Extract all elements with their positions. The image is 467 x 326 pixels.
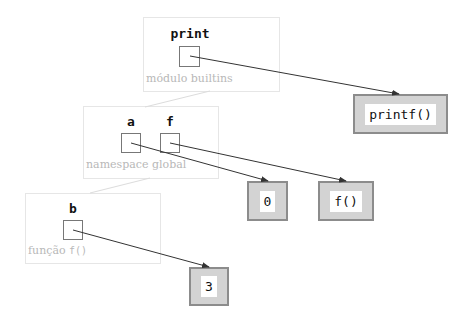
var-name-f: f (150, 114, 190, 129)
object-int-3-label: 3 (201, 276, 217, 297)
frame-connector-global-function (90, 178, 150, 193)
object-int-0-label: 0 (260, 191, 276, 212)
object-int-3: 3 (189, 267, 229, 306)
frame-connector-builtins-global (145, 91, 210, 107)
var-box-print (179, 46, 200, 67)
frame-label-function-f: função f() (28, 244, 87, 257)
frame-label-builtins: módulo builtins (146, 72, 233, 85)
var-name-a: a (111, 114, 151, 129)
var-name-print: print (170, 26, 210, 41)
object-int-0: 0 (247, 181, 288, 221)
var-box-a (121, 133, 141, 153)
var-name-b: b (53, 201, 93, 216)
namespace-diagram: print módulo builtins a f namespace glob… (0, 0, 467, 326)
object-printf: printf() (353, 94, 448, 134)
object-printf-label: printf() (365, 104, 436, 125)
object-function-f-label: f() (330, 191, 361, 212)
var-box-f (160, 133, 180, 153)
frame-label-global: namespace global (86, 158, 186, 171)
var-box-b (63, 220, 83, 240)
object-function-f: f() (318, 181, 374, 221)
